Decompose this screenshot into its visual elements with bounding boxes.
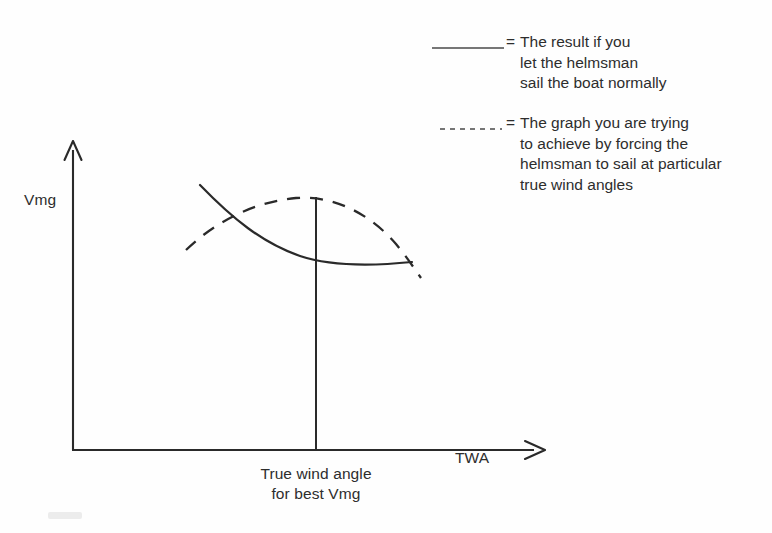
solid-curve-normal-sailing <box>200 185 412 265</box>
legend-equals-sign: = <box>506 32 520 52</box>
scan-artifact <box>48 512 82 519</box>
dashed-line-sample-icon <box>430 113 506 133</box>
legend-item-solid: = The result if you let the helmsman sai… <box>430 32 667 94</box>
legend-dashed-text: The graph you are trying to achieve by f… <box>520 113 722 195</box>
y-axis-label: Vmg <box>24 191 56 209</box>
solid-line-sample-icon <box>430 32 506 52</box>
best-vmg-annotation: True wind angle for best Vmg <box>186 464 446 504</box>
x-axis-label: TWA <box>455 449 489 467</box>
legend-item-dashed: = The graph you are trying to achieve by… <box>430 113 722 195</box>
dashed-curve-target <box>186 198 421 278</box>
legend-equals-sign: = <box>506 113 520 133</box>
diagram-page: Vmg TWA True wind angle for best Vmg = T… <box>0 0 772 533</box>
solid-line-sample <box>430 32 506 52</box>
legend-solid-text: The result if you let the helmsman sail … <box>520 32 666 94</box>
dashed-line-sample <box>430 113 506 133</box>
